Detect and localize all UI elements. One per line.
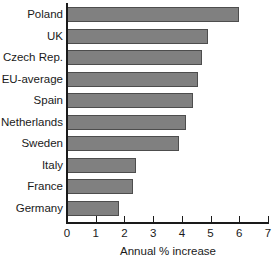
x-axis-tick-label: 7 [258,226,278,240]
x-axis-tick [268,216,269,222]
x-axis-tick-label: 2 [114,226,134,240]
bar [67,50,202,65]
x-axis-tick [182,216,183,222]
category-label: Germany [0,201,67,216]
y-axis-line [66,3,68,224]
x-axis-tick-label: 0 [57,226,77,240]
bar [67,115,186,130]
x-axis-tick-label: 3 [143,226,163,240]
x-axis-tick [153,216,154,222]
bar [67,93,193,108]
x-axis-tick-label: 6 [229,226,249,240]
x-axis-tick-label: 5 [201,226,221,240]
x-axis-tick [67,216,68,222]
category-label: Poland [0,7,67,22]
bar [67,29,208,44]
x-axis-tick-label: 1 [86,226,106,240]
bar [67,7,239,22]
bar [67,179,133,194]
category-label: Spain [0,93,67,108]
category-label: Netherlands [0,115,67,130]
x-axis-tick [96,216,97,222]
bar [67,72,198,87]
category-label: UK [0,29,67,44]
bar [67,136,179,151]
x-axis-tick-label: 4 [172,226,192,240]
category-label: Italy [0,158,67,173]
x-axis-tick [211,216,212,222]
x-axis-tick [124,216,125,222]
bar [67,201,119,216]
x-axis-title: Annual % increase [67,244,269,258]
bar [67,158,136,173]
category-label: Czech Rep. [0,50,67,65]
horizontal-bar-chart: Poland UK Czech Rep. EU-average Spain Ne… [0,0,278,263]
category-label: France [0,179,67,194]
x-axis-tick [239,216,240,222]
category-label: Sweden [0,136,67,151]
x-axis-line [66,222,269,224]
category-label: EU-average [0,72,67,87]
